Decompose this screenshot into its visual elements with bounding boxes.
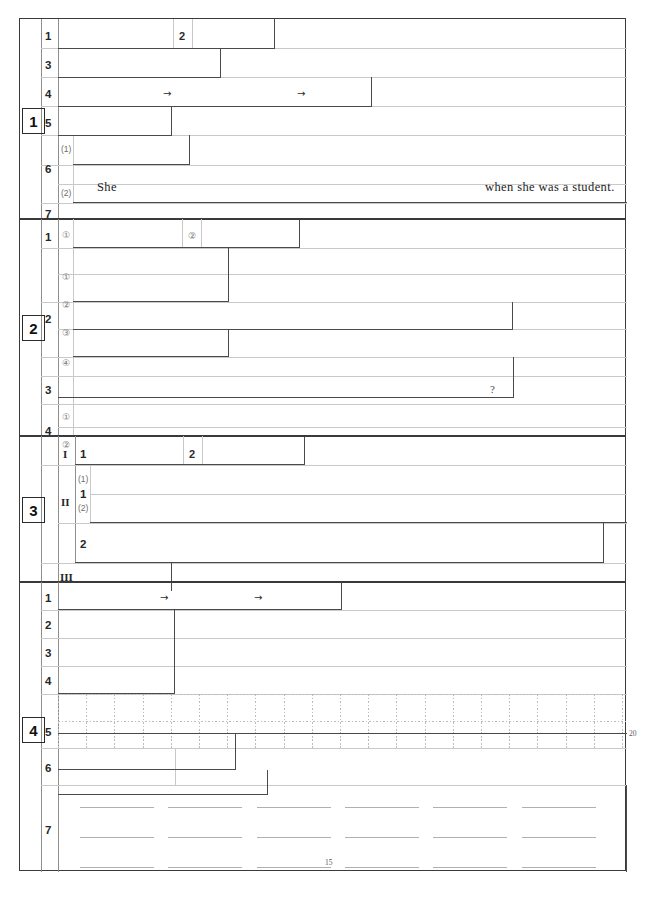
row-label-2-1: 1 bbox=[45, 232, 51, 244]
answer-box-2-2-1[interactable] bbox=[73, 248, 229, 302]
writing-line[interactable] bbox=[257, 837, 331, 838]
row-label-3-II-1: 1 bbox=[80, 489, 86, 501]
sublabel-1-6-1: (1) bbox=[61, 145, 71, 154]
row-label-2-3: 3 bbox=[45, 385, 51, 397]
sentence-lead: She bbox=[97, 181, 117, 194]
section-number-1: 1 bbox=[22, 108, 45, 134]
writing-line[interactable] bbox=[345, 867, 419, 868]
writing-line[interactable] bbox=[168, 837, 242, 838]
writing-line[interactable] bbox=[80, 807, 154, 808]
row-label-1-5: 5 bbox=[45, 118, 51, 130]
answer-box-4-5-tail[interactable] bbox=[58, 734, 236, 770]
answer-box-3-II-2b[interactable] bbox=[75, 523, 604, 563]
row-label-1-3: 3 bbox=[45, 60, 51, 72]
writing-line[interactable] bbox=[257, 807, 331, 808]
roman-column-rule bbox=[58, 436, 59, 582]
answer-box-2-3[interactable] bbox=[58, 357, 514, 398]
answer-box-1-1[interactable] bbox=[58, 19, 275, 49]
row-number-column-rule bbox=[58, 219, 59, 435]
writing-line[interactable] bbox=[522, 837, 596, 838]
group-label-3-I: I bbox=[63, 449, 67, 460]
row-label-4-6: 6 bbox=[45, 763, 51, 775]
row-label-4-4: 4 bbox=[45, 676, 51, 688]
line-count-marker: 15 bbox=[325, 859, 333, 867]
row-label-1-6: 6 bbox=[45, 164, 51, 176]
writing-line[interactable] bbox=[522, 867, 596, 868]
writing-lines-area[interactable] bbox=[80, 795, 610, 867]
row-label-4-5: 5 bbox=[45, 727, 51, 739]
row-label-4-3: 3 bbox=[45, 648, 51, 660]
sublabel-2-4-1: ① bbox=[62, 413, 70, 422]
sublabel-2-2-1: ① bbox=[62, 273, 70, 282]
row-label-1-1: 1 bbox=[45, 31, 51, 43]
writing-line[interactable] bbox=[433, 867, 507, 868]
sentence-tail: when she was a student. bbox=[485, 181, 615, 194]
writing-line[interactable] bbox=[522, 807, 596, 808]
answer-box-4-2to4[interactable] bbox=[58, 610, 175, 694]
answer-box-1-5[interactable] bbox=[58, 106, 172, 136]
answer-box-2-2-4[interactable] bbox=[73, 330, 229, 357]
section-number-4: 4 bbox=[22, 717, 45, 743]
answer-box-2-2-3[interactable] bbox=[73, 302, 513, 330]
writing-line[interactable] bbox=[257, 867, 331, 868]
answer-box-1-3[interactable] bbox=[58, 48, 221, 78]
grid-count-marker: 20 bbox=[629, 730, 637, 738]
section-number-3: 3 bbox=[22, 497, 45, 523]
row-label-4-1: 1 bbox=[45, 593, 51, 605]
sublabel-1-6-2: (2) bbox=[61, 189, 71, 198]
writing-line[interactable] bbox=[168, 867, 242, 868]
row-label-4-7: 7 bbox=[45, 825, 51, 837]
writing-line[interactable] bbox=[345, 807, 419, 808]
group-label-3-II: II bbox=[61, 497, 70, 508]
section-number-2: 2 bbox=[22, 315, 45, 341]
answer-box-2-4[interactable] bbox=[73, 398, 627, 435]
sublabel-2-1-1: ① bbox=[62, 231, 70, 240]
answer-box-4-5-grid[interactable] bbox=[58, 694, 627, 734]
row-label-4-2: 2 bbox=[45, 620, 51, 632]
sublabel-2-2-3: ③ bbox=[62, 329, 70, 338]
sublabel-3-II-1-1: (1) bbox=[78, 475, 88, 484]
answer-box-3-II-1[interactable] bbox=[90, 465, 627, 523]
sublabel-3-II-1-2: (2) bbox=[78, 504, 88, 513]
row-label-2-2: 2 bbox=[45, 314, 51, 326]
writing-line[interactable] bbox=[80, 837, 154, 838]
sublabel-2-2-2: ② bbox=[62, 301, 70, 310]
answer-box-1-4[interactable] bbox=[58, 77, 372, 107]
writing-line[interactable] bbox=[80, 867, 154, 868]
writing-line[interactable] bbox=[433, 837, 507, 838]
answer-box-4-1[interactable] bbox=[58, 582, 342, 610]
writing-line[interactable] bbox=[168, 807, 242, 808]
answer-sheet-frame: 1 1 3 4 5 6 7 (1) (2) 2 → → She when she… bbox=[19, 18, 626, 871]
row-label-1-4: 4 bbox=[45, 89, 51, 101]
answer-box-1-6-1[interactable] bbox=[73, 135, 190, 165]
writing-line[interactable] bbox=[433, 807, 507, 808]
answer-box-2-1[interactable] bbox=[73, 220, 300, 248]
answer-box-3-I-1[interactable] bbox=[75, 437, 305, 465]
writing-line[interactable] bbox=[345, 837, 419, 838]
